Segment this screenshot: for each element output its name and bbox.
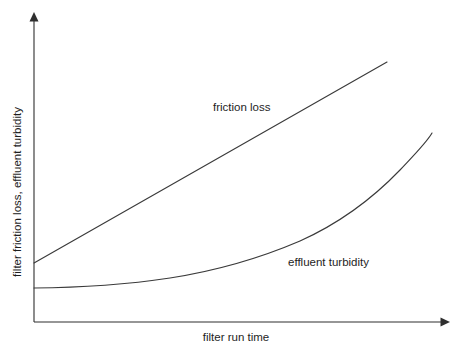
chart-figure: friction loss effluent turbidity filter … [0,0,455,351]
x-axis [34,318,450,327]
x-axis-label: filter run time [203,331,269,343]
series-label-effluent-turbidity: effluent turbidity [288,256,369,268]
y-axis-label: filter friction loss, effluent turbidity [11,107,23,277]
y-axis [30,12,39,322]
series-line-effluent-turbidity [34,133,432,288]
y-axis-arrow-icon [30,12,39,22]
chart-canvas: friction loss effluent turbidity filter … [0,0,455,351]
series-label-friction-loss: friction loss [213,101,271,113]
series-line-friction-loss [34,62,387,263]
x-axis-arrow-icon [441,318,451,327]
